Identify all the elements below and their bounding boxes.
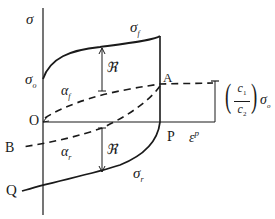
forward-yield-label: σf: [130, 20, 140, 38]
point-Q-label: Q: [6, 183, 17, 198]
saturation-sigma-label: σo: [260, 93, 270, 110]
sigma-symbol: σ: [260, 92, 267, 107]
subscript: 2: [243, 111, 247, 119]
point-A-label: A: [163, 71, 172, 84]
radius-upper-label: ℜ: [106, 61, 117, 75]
paren-open: (: [225, 79, 231, 113]
subscript: 1: [243, 89, 247, 97]
point-B-label: B: [5, 141, 14, 155]
y-axis-label: σ: [26, 12, 33, 27]
subscript: f: [68, 92, 70, 101]
subscript: r: [140, 175, 143, 184]
fraction-denominator: c2: [234, 103, 250, 121]
x-axis-superscript: p: [195, 128, 200, 138]
subscript: f: [137, 29, 139, 38]
subscript: r: [68, 153, 71, 162]
subscript: o: [267, 102, 271, 110]
subscript: o: [32, 81, 36, 90]
initial-yield-label: σo: [25, 72, 36, 90]
back-stress-reverse-label: αr: [61, 145, 71, 162]
reverse-yield-label: σr: [133, 166, 144, 184]
point-P-label: P: [167, 130, 175, 144]
fraction-numerator: c1: [234, 82, 250, 100]
saturation-fraction: c1 c2: [234, 82, 250, 122]
x-axis-label: εp: [189, 129, 199, 145]
radius-lower-label: ℜ: [106, 143, 117, 157]
back-stress-forward-label: αf: [61, 84, 71, 101]
origin-label: O: [29, 114, 39, 128]
paren-close: ): [251, 79, 257, 113]
sigma-symbol: σ: [26, 11, 33, 27]
